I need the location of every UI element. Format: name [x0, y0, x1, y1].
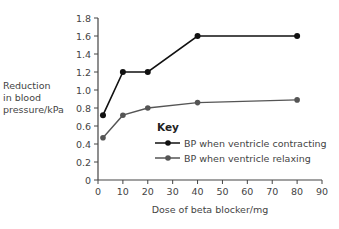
legend-label: BP when ventricle relaxing: [184, 153, 311, 164]
data-point-marker: [100, 112, 106, 118]
y-axis-title: Reductionin bloodpressure/kPa: [3, 80, 64, 115]
legend-marker-icon: [165, 140, 171, 146]
axes: 00.20.40.60.81.01.21.41.61.8010203040506…: [76, 13, 328, 198]
y-axis-title-line: pressure/kPa: [3, 104, 64, 115]
y-axis-title-line: Reduction: [3, 80, 51, 91]
x-tick-label: 80: [291, 186, 303, 197]
legend-label: BP when ventricle contracting: [184, 138, 327, 149]
legend-entry: BP when ventricle contracting: [155, 138, 327, 149]
data-point-marker: [294, 33, 300, 39]
data-point-marker: [145, 69, 151, 75]
x-tick-label: 20: [142, 186, 154, 197]
x-tick-label: 0: [95, 186, 101, 197]
data-point-marker: [120, 69, 126, 75]
y-tick-label: 1.2: [76, 67, 91, 78]
series-line: [103, 100, 297, 138]
data-point-marker: [100, 135, 106, 141]
data-point-marker: [294, 97, 300, 103]
series-contracting: [100, 33, 300, 118]
x-tick-label: 50: [216, 186, 228, 197]
data-point-marker: [120, 112, 126, 118]
y-tick-label: 0.6: [76, 121, 91, 132]
legend-entry: BP when ventricle relaxing: [155, 153, 311, 164]
y-tick-label: 1.6: [76, 31, 91, 42]
legend-title: Key: [157, 121, 179, 133]
x-tick-label: 90: [316, 186, 328, 197]
y-tick-label: 0.8: [76, 103, 91, 114]
series-relaxing: [100, 97, 300, 140]
x-axis-title: Dose of beta blocker/mg: [152, 204, 269, 215]
x-tick-label: 40: [192, 186, 204, 197]
data-point-marker: [195, 100, 201, 106]
legend-marker-icon: [165, 155, 171, 161]
x-tick-label: 10: [117, 186, 129, 197]
y-tick-label: 0.4: [76, 139, 91, 150]
x-tick-label: 60: [241, 186, 253, 197]
data-point-marker: [145, 105, 151, 111]
y-axis-title-line: in blood: [3, 92, 41, 103]
y-tick-label: 1.8: [76, 13, 91, 24]
y-tick-label: 1.0: [76, 85, 91, 96]
y-tick-label: 0.2: [76, 157, 91, 168]
legend: KeyBP when ventricle contractingBP when …: [155, 121, 327, 164]
y-tick-label: 0: [85, 175, 91, 186]
data-point-marker: [195, 33, 201, 39]
data-series: [100, 33, 300, 141]
line-chart: Reductionin bloodpressure/kPa 00.20.40.6…: [0, 0, 339, 229]
y-tick-label: 1.4: [76, 49, 91, 60]
x-tick-label: 70: [266, 186, 278, 197]
x-tick-label: 30: [167, 186, 179, 197]
